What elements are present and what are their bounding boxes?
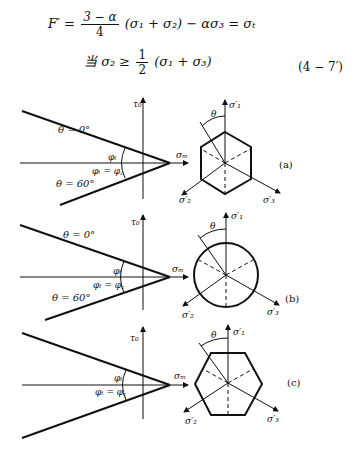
theta-label-c: θ	[211, 330, 217, 340]
mohr-envelope-a	[20, 98, 188, 205]
figure: θ = 0° θ = 60° τ₀ σₘ φₜ φₜ = φ꜀ θ σ′₁ σ′…	[0, 0, 360, 455]
s2-label-b: σ′₂	[182, 310, 194, 320]
pi-plane-b	[183, 213, 279, 307]
theta-0-label-a: θ = 0°	[58, 124, 90, 135]
sigma-m-label-c: σₘ	[174, 371, 186, 381]
panel-label-c: (c)	[287, 377, 301, 388]
tau-label-c: τ₀	[130, 333, 139, 343]
panel-label-a: (a)	[279, 159, 293, 170]
theta-60-label-a: θ = 60°	[56, 178, 94, 189]
panel-label-b: (b)	[285, 293, 299, 304]
s3-label-c: σ′₃	[267, 414, 279, 424]
sigma-m-label-a: σₘ	[176, 150, 188, 160]
theta-0-label-b: θ = 0°	[63, 229, 95, 240]
tau-label-a: τ₀	[133, 99, 142, 109]
s1-label-c: σ′₁	[233, 327, 245, 337]
tau-label-b: τ₀	[131, 217, 140, 227]
panel-a: θ = 0° θ = 60° τ₀ σₘ φₜ φₜ = φ꜀ θ σ′₁ σ′…	[20, 98, 293, 205]
phi-t-label-a: φₜ	[108, 152, 117, 162]
phi-eq-label-b: φₜ = φ꜀	[93, 280, 125, 290]
pi-plane-c	[184, 325, 278, 415]
s3-label-b: σ′₃	[267, 307, 279, 317]
s1-label-a: σ′₁	[229, 100, 241, 110]
phi-eq-label-c: φₜ = φ꜀	[95, 387, 127, 397]
pi-plane-a	[182, 100, 280, 195]
theta-label-a: θ	[211, 109, 217, 119]
panel-b: θ = 0° θ = 60° τ₀ σₘ φₜ φₜ = φ꜀ θ σ′₁ σ′…	[20, 211, 299, 320]
phi-eq-label-a: φₜ = φ꜀	[92, 166, 124, 176]
s3-label-a: σ′₃	[263, 195, 275, 205]
panel-c: τ₀ σₘ φₜ φₜ = φ꜀ θ σ′₁ σ′₂ σ′₃ (c)	[22, 325, 301, 438]
sigma-m-label-b: σₘ	[172, 264, 184, 274]
phi-t-label-c: φₜ	[114, 373, 123, 383]
mohr-envelope-c	[22, 327, 188, 438]
s1-label-b: σ′₁	[231, 211, 243, 221]
s2-label-a: σ′₂	[179, 195, 191, 205]
phi-t-label-b: φₜ	[113, 266, 122, 276]
theta-label-b: θ	[210, 221, 216, 231]
mohr-envelope-b	[20, 215, 188, 320]
s2-label-c: σ′₂	[185, 416, 197, 426]
theta-60-label-b: θ = 60°	[52, 292, 90, 303]
